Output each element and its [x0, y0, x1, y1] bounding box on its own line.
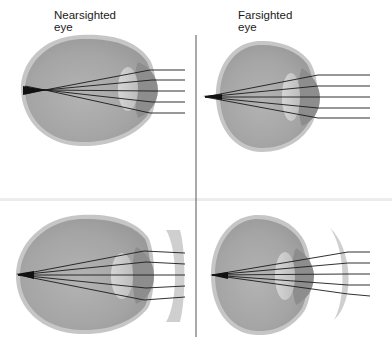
crystalline-lens: [111, 253, 133, 299]
vision-correction-diagram: [0, 0, 392, 350]
nearsighted-eye: [21, 35, 185, 146]
crystalline-lens: [275, 252, 295, 300]
farsighted-eye: [203, 41, 370, 152]
cornea: [292, 248, 314, 305]
farsighted-corrected-eye: [210, 215, 370, 335]
nearsighted-corrected-eye: [16, 215, 185, 334]
concave-corrective-lens: [166, 230, 185, 322]
crystalline-lens: [118, 67, 138, 111]
